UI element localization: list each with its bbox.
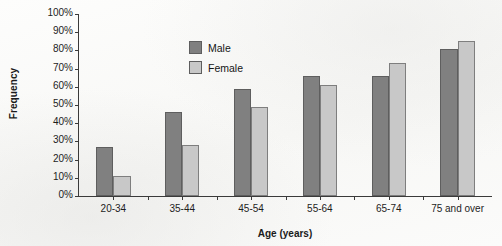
bar-male-55-64	[303, 76, 320, 196]
y-axis-tick-label: 80%	[53, 43, 73, 54]
y-axis-tick-label: 10%	[53, 171, 73, 182]
x-axis-tick-label: 65-74	[350, 203, 428, 214]
y-axis-tick-mark	[75, 32, 79, 33]
bar-group: 75 and over	[440, 14, 474, 196]
legend-label: Male	[208, 42, 231, 54]
y-axis-tick-mark	[75, 69, 79, 70]
y-axis-tick-label: 60%	[53, 80, 73, 91]
y-axis-tick-label: 0%	[59, 189, 73, 200]
x-axis-label: Age (years)	[78, 228, 492, 239]
x-axis-boundary-tick	[148, 196, 149, 200]
y-axis-tick-label: 40%	[53, 116, 73, 127]
bar-group: 20-34	[96, 14, 130, 196]
chart-legend: MaleFemale	[189, 41, 243, 81]
y-axis-tick-label: 70%	[53, 62, 73, 73]
y-axis-tick-mark	[75, 14, 79, 15]
y-axis-tick-label: 30%	[53, 134, 73, 145]
bar-male-45-54	[234, 89, 251, 196]
bar-female-20-34	[113, 176, 130, 196]
bar-male-65-74	[372, 76, 389, 196]
bar-male-20-34	[96, 147, 113, 196]
x-axis-tick-label: 45-54	[212, 203, 290, 214]
x-axis-tick-label: 75 and over	[418, 203, 496, 214]
y-axis-tick-mark	[75, 178, 79, 179]
legend-label: Female	[208, 62, 243, 74]
x-axis-boundary-tick	[286, 196, 287, 200]
legend-swatch-female	[189, 61, 202, 74]
x-axis-tick-mark	[458, 196, 459, 200]
x-axis-boundary-tick	[217, 196, 218, 200]
y-axis-tick-label: 100%	[47, 7, 73, 18]
x-axis-boundary-tick	[354, 196, 355, 200]
y-axis-tick-mark	[75, 160, 79, 161]
legend-item-male: Male	[189, 41, 243, 54]
x-axis-tick-label: 55-64	[281, 203, 359, 214]
bar-female-55-64	[320, 85, 337, 196]
bar-female-45-54	[251, 107, 268, 196]
y-axis-tick-label: 20%	[53, 153, 73, 164]
y-axis-label: Frequency	[8, 54, 19, 134]
bar-group: 55-64	[303, 14, 337, 196]
bar-group: 65-74	[372, 14, 406, 196]
x-axis-tick-mark	[320, 196, 321, 200]
y-axis-tick-mark	[75, 87, 79, 88]
bar-chart-figure: Frequency 0%10%20%30%40%50%60%70%80%90%1…	[0, 0, 502, 246]
x-axis-tick-label: 35-44	[143, 203, 221, 214]
y-axis-tick-mark	[75, 123, 79, 124]
x-axis-tick-mark	[182, 196, 183, 200]
x-axis-boundary-tick	[423, 196, 424, 200]
bar-female-35-44	[182, 145, 199, 196]
plot-area: 0%10%20%30%40%50%60%70%80%90%100% 20-343…	[78, 14, 492, 197]
y-axis-tick-mark	[75, 196, 79, 197]
x-axis-tick-label: 20-34	[74, 203, 152, 214]
x-axis-tick-mark	[389, 196, 390, 200]
bar-male-75-and-over	[440, 49, 457, 196]
x-axis-tick-mark	[113, 196, 114, 200]
y-axis-tick-mark	[75, 141, 79, 142]
y-axis-tick-mark	[75, 50, 79, 51]
bar-female-75-and-over	[458, 41, 475, 196]
y-axis-tick-label: 90%	[53, 25, 73, 36]
x-axis-tick-mark	[251, 196, 252, 200]
y-axis-tick-mark	[75, 105, 79, 106]
y-axis-tick-label: 50%	[53, 98, 73, 109]
bar-female-65-74	[389, 63, 406, 196]
bar-male-35-44	[165, 112, 182, 196]
legend-swatch-male	[189, 41, 202, 54]
legend-item-female: Female	[189, 61, 243, 74]
